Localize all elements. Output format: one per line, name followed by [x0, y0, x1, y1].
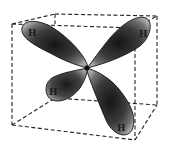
label-h-upper-left: H: [28, 28, 37, 38]
central-atom: [85, 66, 89, 70]
lobe-lower-right: [87, 68, 134, 135]
cube-edge: [12, 98, 55, 125]
cube-edge: [55, 14, 157, 16]
diagram-canvas: H H H H: [0, 0, 170, 150]
label-h-lower-right: H: [117, 123, 126, 133]
lobe-upper-right: [87, 17, 150, 68]
label-h-upper-right: H: [139, 29, 148, 39]
label-h-lower-left: H: [49, 87, 58, 97]
cube-edge: [135, 105, 157, 140]
sp3-orbital-diagram: H H H H: [0, 0, 170, 150]
orbital-lobes: [22, 17, 150, 135]
